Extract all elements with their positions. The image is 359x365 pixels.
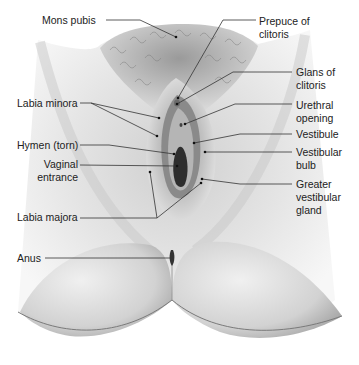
- label-anus: Anus: [17, 252, 41, 265]
- urethral-opening: [180, 123, 183, 127]
- label-hymen-torn: Hymen (torn): [17, 139, 78, 152]
- label-labia-majora: Labia majora: [17, 211, 78, 224]
- label-urethral-opening: Urethral opening: [296, 99, 333, 125]
- label-labia-minora: Labia minora: [17, 97, 78, 110]
- anatomy-figure: Mons pubis Labia minora Hymen (torn) Vag…: [0, 0, 359, 365]
- label-prepuce-of-clitoris: Prepuce of clitoris: [259, 15, 310, 41]
- label-glans-of-clitoris: Glans of clitoris: [296, 66, 335, 92]
- label-greater-vestibular-gland: Greater vestibular gland: [296, 178, 341, 217]
- label-vestibular-bulb: Vestibular bulb: [296, 146, 342, 172]
- label-vestibule: Vestibule: [296, 128, 339, 141]
- label-vaginal-entrance: Vaginal entrance: [36, 158, 78, 184]
- label-mons-pubis: Mons pubis: [42, 14, 96, 27]
